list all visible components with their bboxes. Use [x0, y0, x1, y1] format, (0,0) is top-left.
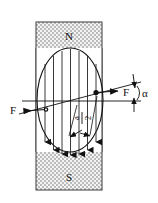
angle-alpha-label: α [142, 87, 148, 99]
magnetic-field-coil-diagram: F F α a 2 N S [0, 0, 158, 203]
south-pole-label: S [66, 171, 72, 183]
dimension-denominator: 2 [83, 116, 93, 121]
force-arrow-right [93, 90, 118, 95]
force-right-label: F [123, 86, 129, 98]
angle-alpha-indicator [133, 74, 139, 112]
force-left-label: F [10, 104, 16, 116]
dimension-numerator: a [71, 116, 81, 120]
diagram-canvas: F F α a 2 N S [0, 0, 158, 203]
north-pole-label: N [65, 30, 73, 42]
